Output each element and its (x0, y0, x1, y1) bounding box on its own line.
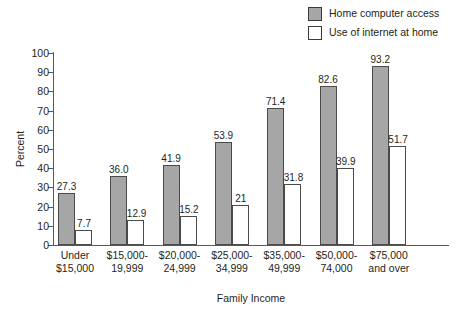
plot-area: 0102030405060708090100 27.37.736.012.941… (53, 53, 448, 245)
y-axis-title: Percent (14, 131, 26, 167)
bar: 31.8 (284, 184, 301, 245)
bar-value-label: 27.3 (57, 182, 76, 192)
bar: 12.9 (127, 220, 144, 245)
bar-group: 53.921 (215, 53, 249, 245)
bar-group: 93.251.7 (372, 53, 406, 245)
bar-value-label: 15.2 (179, 205, 198, 215)
bar: 36.0 (110, 176, 127, 245)
legend-swatch-icon-home-computer-access (308, 7, 322, 21)
y-tick-label: 70 (37, 105, 49, 116)
bar-value-label: 51.7 (388, 135, 407, 145)
y-tick-label: 90 (37, 67, 49, 78)
legend-item-use-of-internet-at-home: Use of internet at home (308, 25, 439, 40)
bar-value-label: 12.9 (127, 209, 146, 219)
bar-value-label: 82.6 (318, 75, 337, 85)
bar-value-label: 53.9 (214, 131, 233, 141)
y-tick-label: 40 (37, 163, 49, 174)
bar: 21 (232, 205, 249, 245)
y-tick-label: 30 (37, 182, 49, 193)
bar-value-label: 21 (235, 194, 246, 204)
legend-item-home-computer-access: Home computer access (308, 6, 439, 21)
bar: 53.9 (215, 142, 232, 245)
bar-value-label: 93.2 (371, 55, 390, 65)
x-tick-label: $75,000and over (349, 249, 429, 274)
y-axis-title-holder: Percent (0, 53, 16, 245)
bar: 71.4 (267, 108, 284, 245)
bar: 39.9 (337, 168, 354, 245)
bar: 41.9 (163, 165, 180, 245)
bar: 15.2 (180, 216, 197, 245)
bar-value-label: 41.9 (161, 154, 180, 164)
bar-group: 36.012.9 (110, 53, 144, 245)
bar-group: 82.639.9 (320, 53, 354, 245)
bar-group: 41.915.2 (163, 53, 197, 245)
bar: 27.3 (58, 193, 75, 245)
bar-value-label: 7.7 (77, 219, 91, 229)
bar: 7.7 (75, 230, 92, 245)
bar: 93.2 (372, 66, 389, 245)
bar: 82.6 (320, 86, 337, 245)
x-axis-line (53, 245, 449, 246)
y-tick-label: 50 (37, 144, 49, 155)
y-tick-label: 20 (37, 201, 49, 212)
y-tick-label: 80 (37, 86, 49, 97)
bar-group: 27.37.7 (58, 53, 92, 245)
y-tick-label: 100 (31, 48, 49, 59)
legend-label-home-computer-access: Home computer access (329, 8, 439, 19)
y-tick-label: 60 (37, 125, 49, 136)
legend-swatch-icon-use-of-internet-at-home (308, 26, 322, 40)
chart-legend: Home computer access Use of internet at … (308, 6, 439, 40)
x-axis-title: Family Income (53, 292, 449, 304)
legend-label-use-of-internet-at-home: Use of internet at home (329, 27, 438, 38)
bar: 51.7 (389, 146, 406, 245)
bar-value-label: 31.8 (284, 173, 303, 183)
bar-value-label: 36.0 (109, 165, 128, 175)
bar-group: 71.431.8 (267, 53, 301, 245)
bar-value-label: 39.9 (336, 157, 355, 167)
chart-figure: Home computer access Use of internet at … (0, 0, 464, 316)
y-tick-label: 10 (37, 221, 49, 232)
bar-value-label: 71.4 (266, 97, 285, 107)
